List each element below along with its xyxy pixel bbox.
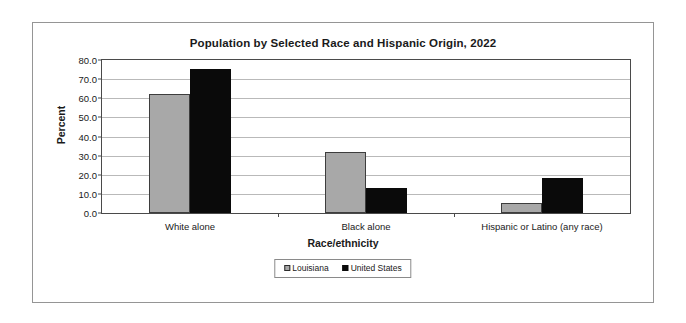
legend-label: Louisiana — [292, 263, 328, 273]
bar-united-states — [542, 178, 583, 213]
y-tick-label: 60.0 — [79, 93, 98, 104]
chart-title: Population by Selected Race and Hispanic… — [33, 37, 653, 49]
bar-united-states — [366, 188, 407, 213]
x-category-separator — [278, 213, 279, 217]
bars-layer — [102, 60, 630, 213]
x-axis-title: Race/ethnicity — [33, 237, 653, 249]
x-category-separator — [454, 213, 455, 217]
bar-group — [149, 60, 231, 213]
y-tick-label: 10.0 — [79, 188, 98, 199]
y-tick-label: 70.0 — [79, 74, 98, 85]
bar-group — [325, 60, 407, 213]
legend-swatch-icon — [343, 265, 349, 271]
bar-group — [501, 60, 583, 213]
y-tick-label: 80.0 — [79, 55, 98, 66]
legend-swatch-icon — [284, 265, 290, 271]
y-tick-label: 30.0 — [79, 150, 98, 161]
x-category-label: Hispanic or Latino (any race) — [481, 221, 602, 232]
legend-item-united-states: United States — [343, 263, 402, 273]
bar-united-states — [190, 69, 231, 213]
legend-item-louisiana: Louisiana — [284, 263, 328, 273]
x-category-label: White alone — [165, 221, 215, 232]
y-tick-label: 0.0 — [84, 208, 97, 219]
chart-legend: LouisianaUnited States — [274, 259, 411, 278]
bar-louisiana — [325, 152, 366, 213]
y-tick-label: 20.0 — [79, 169, 98, 180]
x-category-label: Black alone — [341, 221, 390, 232]
y-tick-label: 40.0 — [79, 131, 98, 142]
y-tick-label: 50.0 — [79, 112, 98, 123]
y-axis-title: Percent — [55, 85, 67, 165]
bar-louisiana — [501, 203, 542, 213]
plot-area: 0.010.020.030.040.050.060.070.080.0 Whit… — [101, 59, 631, 214]
chart-figure-frame: Population by Selected Race and Hispanic… — [32, 22, 654, 303]
legend-label: United States — [351, 263, 402, 273]
bar-louisiana — [149, 94, 190, 213]
